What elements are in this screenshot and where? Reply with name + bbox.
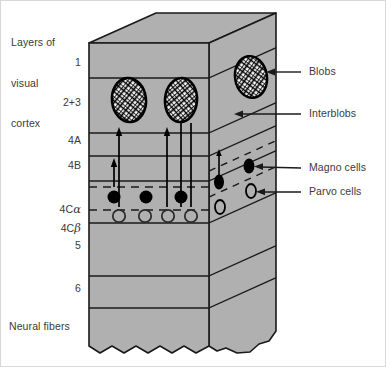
layer-label-6: 6 <box>21 282 81 295</box>
callout-label-blobs: Blobs <box>309 65 336 78</box>
neural-fibers-label: Neural fibers <box>9 320 70 333</box>
figure-title-line-2: visual <box>11 77 55 91</box>
leader-magno <box>260 167 301 168</box>
figure-container: Layers of visual cortex 1 2+3 4A 4B 4Cα … <box>0 0 386 367</box>
parvo-cell <box>185 210 197 222</box>
parvo-cell <box>113 210 125 222</box>
layer-label-4c-beta-text: 4C <box>61 222 75 234</box>
magno-cell <box>140 191 153 204</box>
layer-label-4a: 4A <box>21 134 81 147</box>
layer-label-2-3: 2+3 <box>21 96 81 109</box>
parvo-cell <box>162 210 174 222</box>
callout-label-parvo-cells: Parvo cells <box>309 185 361 198</box>
figure-title-line-3: cortex <box>11 117 55 131</box>
layer-label-4b: 4B <box>21 159 81 172</box>
layer-label-1: 1 <box>21 56 81 69</box>
callout-label-interblobs: Interblobs <box>309 107 356 120</box>
callout-label-magno-cells: Magno cells <box>309 161 366 174</box>
magno-cell <box>175 191 188 204</box>
figure-title-line-1: Layers of <box>11 36 55 50</box>
layer-label-4c-beta-greek: β <box>74 221 81 235</box>
magno-cell <box>108 191 121 204</box>
parvo-cell <box>139 210 151 222</box>
layer-label-5: 5 <box>21 239 81 252</box>
